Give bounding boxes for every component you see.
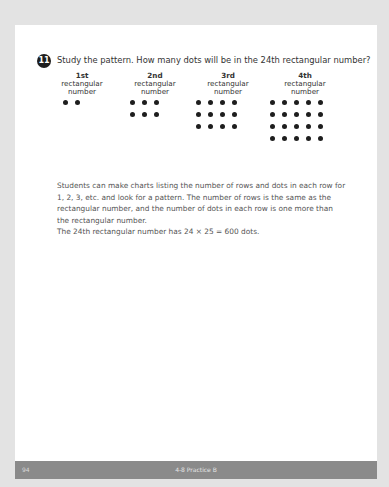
dot — [130, 100, 135, 105]
dot — [142, 112, 147, 117]
dot — [318, 124, 323, 129]
dot — [282, 124, 287, 129]
dot — [294, 124, 299, 129]
dot — [270, 124, 275, 129]
dot — [318, 136, 323, 141]
dot — [154, 112, 159, 117]
dot — [318, 100, 323, 105]
worksheet-page: 11 Study the pattern. How many dots will… — [15, 25, 377, 479]
dot — [294, 112, 299, 117]
dot — [282, 136, 287, 141]
page-footer: 94 4-8 Practice B — [15, 461, 377, 479]
dot — [75, 100, 80, 105]
dot — [306, 124, 311, 129]
dot — [154, 100, 159, 105]
dot — [232, 100, 237, 105]
dot — [232, 112, 237, 117]
figure-label-1: 1st rectangular number — [47, 72, 117, 96]
dot — [208, 100, 213, 105]
dot — [142, 100, 147, 105]
dot — [282, 112, 287, 117]
dot — [130, 112, 135, 117]
dot — [63, 100, 68, 105]
dot — [220, 100, 225, 105]
dot — [318, 112, 323, 117]
lesson-label: 4-8 Practice B — [15, 466, 377, 473]
dot — [220, 112, 225, 117]
answer-explanation: Students can make charts listing the num… — [57, 180, 347, 238]
dot — [208, 112, 213, 117]
question-number-badge: 11 — [37, 54, 51, 68]
figure-label-2: 2nd rectangular number — [120, 72, 190, 96]
dot — [282, 100, 287, 105]
dot — [294, 100, 299, 105]
dot — [196, 100, 201, 105]
question-text: Study the pattern. How many dots will be… — [57, 55, 371, 65]
dot — [294, 136, 299, 141]
dot — [220, 124, 225, 129]
dot — [306, 112, 311, 117]
figure-label-4: 4th rectangular number — [270, 72, 340, 96]
dot — [196, 124, 201, 129]
answer-result: The 24th rectangular number has 24 × 25 … — [57, 226, 347, 238]
dot — [306, 100, 311, 105]
dot — [196, 112, 201, 117]
dot — [306, 136, 311, 141]
figure-label-3: 3rd rectangular number — [193, 72, 263, 96]
dot — [208, 124, 213, 129]
dot — [270, 100, 275, 105]
answer-paragraph: Students can make charts listing the num… — [57, 180, 347, 226]
dot — [270, 136, 275, 141]
dot — [232, 124, 237, 129]
dot — [270, 112, 275, 117]
